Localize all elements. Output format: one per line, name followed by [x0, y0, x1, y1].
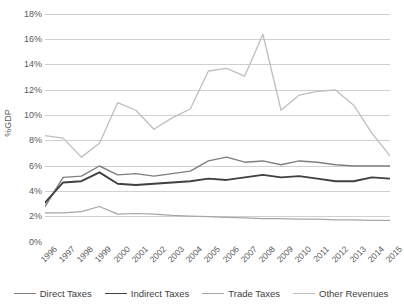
legend-line-swatch-icon — [14, 293, 36, 294]
y-axis-tick-label: 8% — [2, 136, 42, 145]
legend-item-label: Direct Taxes — [40, 288, 92, 299]
legend-item-label: Trade Taxes — [228, 288, 280, 299]
series-lines — [45, 34, 390, 220]
y-axis-tick-label: 18% — [2, 10, 42, 19]
chart-legend: Direct TaxesIndirect TaxesTrade TaxesOth… — [0, 283, 402, 303]
legend-item-trade-taxes[interactable]: Trade Taxes — [202, 288, 280, 299]
legend-line-swatch-icon — [202, 293, 224, 294]
series-line-other-revenues — [45, 34, 390, 157]
legend-item-direct-taxes[interactable]: Direct Taxes — [14, 288, 92, 299]
legend-line-swatch-icon — [293, 293, 315, 294]
y-axis-tick-label: 10% — [2, 111, 42, 120]
plot-svg — [45, 14, 390, 242]
y-axis-tick-label: 14% — [2, 60, 42, 69]
y-axis-tick-label: 4% — [2, 187, 42, 196]
legend-item-label: Indirect Taxes — [131, 288, 189, 299]
y-axis-tick-label: 16% — [2, 35, 42, 44]
series-line-trade-taxes — [45, 207, 390, 221]
y-axis-tick-label: 6% — [2, 162, 42, 171]
y-axis-tick-label: 2% — [2, 212, 42, 221]
legend-item-label: Other Revenues — [319, 288, 388, 299]
legend-item-other-revenues[interactable]: Other Revenues — [293, 288, 388, 299]
x-axis-tick-labels: 1996199719981999200020012002200320042005… — [45, 244, 390, 278]
series-line-indirect-taxes — [45, 172, 390, 202]
plot-area — [45, 14, 390, 242]
y-axis-tick-label: 0% — [2, 238, 42, 247]
legend-line-swatch-icon — [105, 293, 127, 294]
legend-item-indirect-taxes[interactable]: Indirect Taxes — [105, 288, 189, 299]
y-axis-tick-label: 12% — [2, 86, 42, 95]
